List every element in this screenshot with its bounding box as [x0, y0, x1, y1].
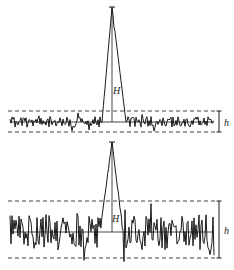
panel-low-snr: H h	[8, 142, 229, 262]
panel-high-snr: H h	[8, 7, 229, 132]
snr-diagram: H h H h	[0, 0, 234, 270]
noise-label: h	[224, 117, 229, 128]
noise-label: h	[224, 225, 229, 236]
diagram-svg: H h H h	[0, 0, 234, 270]
peak-height-label: H	[111, 213, 120, 224]
peak-height-label: H	[112, 85, 121, 96]
